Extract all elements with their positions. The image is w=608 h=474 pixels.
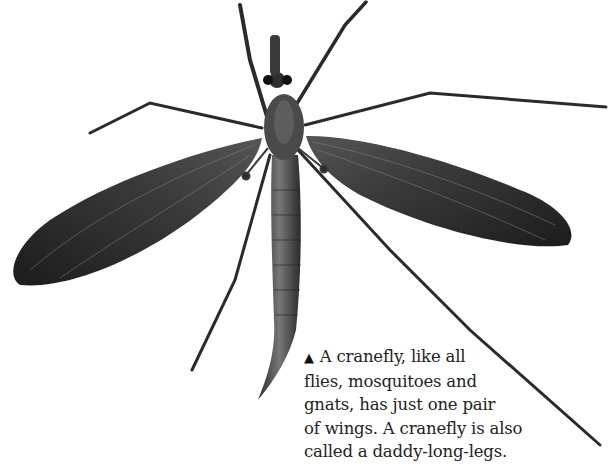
caption-line-4: of wings. A cranefly is also <box>304 417 604 441</box>
caption-line-2: flies, mosquitoes and <box>304 370 604 394</box>
caption-line-5: called a daddy-long-legs. <box>304 440 604 464</box>
figure-caption: ▲A cranefly, like all flies, mosquitoes … <box>304 345 604 464</box>
left-wing <box>13 138 262 285</box>
caption-line-1: ▲A cranefly, like all <box>304 345 604 370</box>
triangle-marker-icon: ▲ <box>304 350 314 365</box>
rostrum <box>270 35 280 75</box>
right-wing <box>306 136 571 246</box>
abdomen <box>258 155 301 400</box>
caption-line-3: gnats, has just one pair <box>304 393 604 417</box>
